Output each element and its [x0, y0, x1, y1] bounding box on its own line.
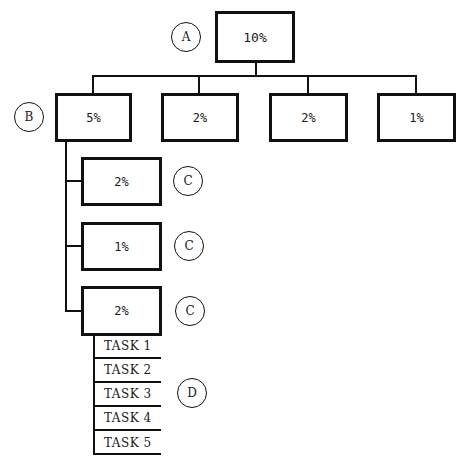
level2-branch-2: [65, 245, 82, 247]
task-spine: [93, 334, 95, 454]
level2-box-1: 2%: [81, 157, 162, 206]
task-item-4: TASK 4: [104, 411, 152, 425]
stem-2: [198, 75, 200, 94]
task-item-3: TASK 3: [104, 387, 152, 401]
task-divider-1: [93, 357, 161, 359]
level1-box-2: 2%: [161, 93, 239, 142]
level2-spine: [65, 140, 67, 312]
stem-1: [92, 75, 94, 94]
label-circle-b: B: [14, 102, 44, 132]
level1-box-4: 1%: [377, 93, 456, 142]
task-divider-5: [93, 453, 161, 455]
task-divider-4: [93, 429, 161, 431]
level2-branch-3: [65, 310, 82, 312]
task-item-1: TASK 1: [104, 339, 152, 353]
level2-box-3: 2%: [81, 286, 162, 336]
label-circle-d: D: [177, 378, 207, 408]
level2-box-2: 1%: [81, 222, 162, 271]
label-circle-c-1: C: [173, 166, 203, 196]
task-divider-2: [93, 381, 161, 383]
label-circle-c-2: C: [174, 231, 204, 261]
task-item-2: TASK 2: [104, 363, 152, 377]
level2-branch-1: [65, 180, 82, 182]
stem-3: [307, 75, 309, 94]
label-circle-a: A: [171, 22, 201, 52]
task-divider-3: [93, 405, 161, 407]
level1-bus: [92, 75, 417, 77]
root-box: 10%: [215, 11, 295, 63]
task-item-5: TASK 5: [104, 436, 152, 450]
level1-box-1: 5%: [55, 93, 132, 142]
level1-box-3: 2%: [269, 93, 348, 142]
stem-4: [415, 75, 417, 94]
label-circle-c-3: C: [175, 296, 205, 326]
